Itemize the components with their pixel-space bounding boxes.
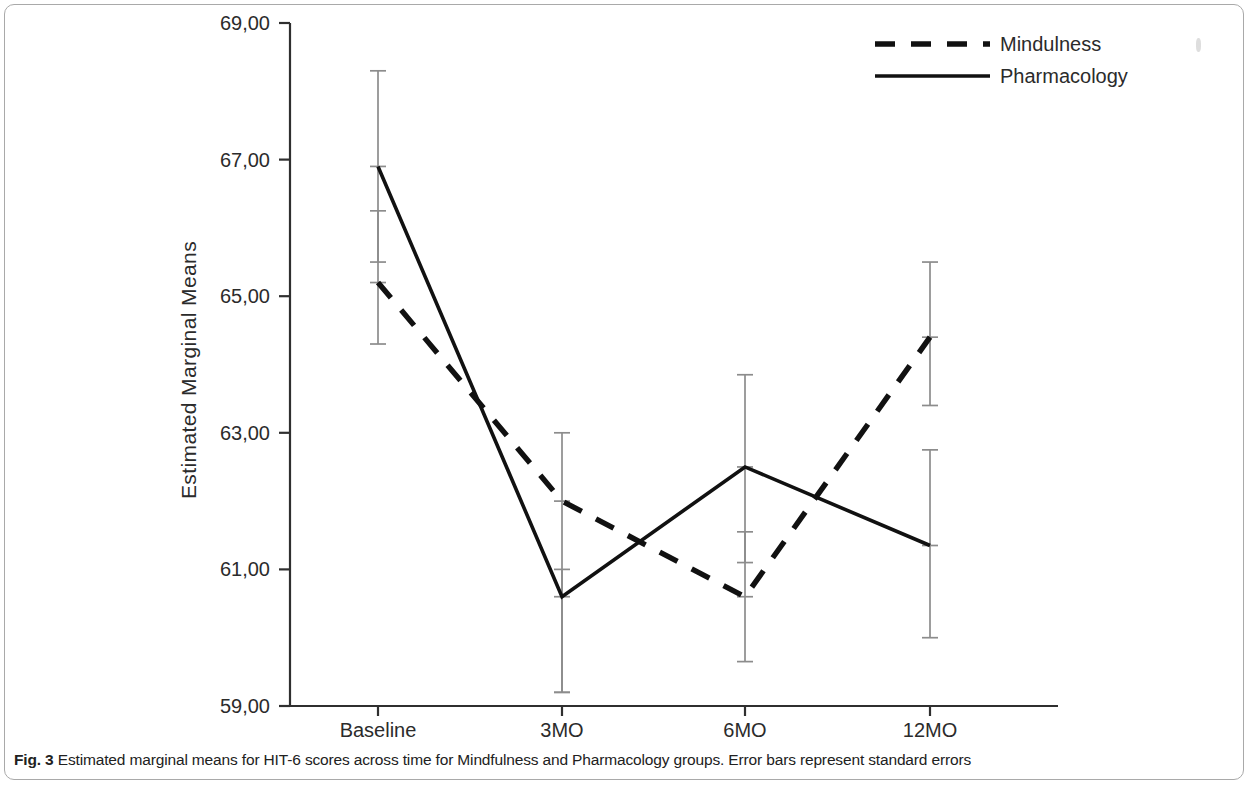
chart-legend: MindulnessPharmacology — [875, 33, 1128, 87]
y-tick-label: 61,00 — [220, 558, 270, 580]
figure-number: Fig. 3 — [14, 751, 54, 768]
y-tick-label: 67,00 — [220, 149, 270, 171]
x-axis-tick-labels: Baseline3MO6MO12MO — [340, 719, 958, 741]
x-tick-label: Baseline — [340, 719, 417, 741]
y-axis-title: Estimated Marginal Means — [177, 241, 200, 499]
y-axis-ticks — [279, 23, 290, 706]
x-axis-ticks — [378, 706, 930, 716]
y-axis-tick-labels: 69,0067,0065,0063,0061,0059,00 — [220, 12, 270, 717]
data-series — [378, 166, 930, 596]
x-tick-label: 3MO — [540, 719, 583, 741]
series-line-mindulness — [378, 283, 930, 597]
figure-container: Estimated Marginal Means 69,0067,0065,00… — [0, 0, 1250, 787]
x-tick-label: 6MO — [723, 719, 766, 741]
axes — [279, 23, 1058, 716]
error-bars — [370, 71, 938, 693]
y-tick-label: 59,00 — [220, 695, 270, 717]
series-line-pharmacology — [378, 166, 930, 596]
line-chart: Estimated Marginal Means 69,0067,0065,00… — [0, 0, 1250, 745]
figure-caption-text: Estimated marginal means for HIT-6 score… — [54, 751, 971, 768]
legend-label-pharmacology: Pharmacology — [1000, 65, 1128, 87]
y-tick-label: 63,00 — [220, 422, 270, 444]
y-tick-label: 65,00 — [220, 285, 270, 307]
y-tick-label: 69,00 — [220, 12, 270, 34]
legend-label-mindulness: Mindulness — [1000, 33, 1101, 55]
chart-area: Estimated Marginal Means 69,0067,0065,00… — [0, 0, 1250, 745]
figure-caption: Fig. 3 Estimated marginal means for HIT-… — [14, 750, 1239, 769]
error-bar — [922, 262, 938, 405]
x-tick-label: 12MO — [903, 719, 957, 741]
